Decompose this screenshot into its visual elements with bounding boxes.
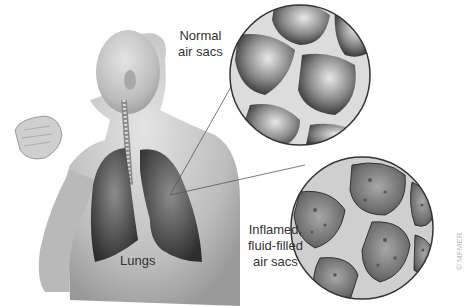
label-line: Normal (178, 28, 223, 44)
label-lungs: Lungs (120, 253, 155, 269)
label-normal-air-sacs: Normal air sacs (178, 28, 223, 60)
pneumonia-diagram: Normal air sacs Inflamed, fluid-filled a… (0, 0, 475, 306)
illustration (0, 0, 475, 306)
label-line: air sacs (178, 44, 223, 60)
label-line: fluid-filled (248, 238, 303, 254)
copyright-notice: © MFMER (455, 233, 464, 270)
label-line: Inflamed, (248, 222, 303, 238)
label-line: air sacs (248, 254, 303, 270)
label-inflamed-air-sacs: Inflamed, fluid-filled air sacs (248, 222, 303, 270)
normal-air-sacs-magnifier (230, 0, 372, 150)
inflamed-air-sacs-magnifier (291, 157, 434, 300)
